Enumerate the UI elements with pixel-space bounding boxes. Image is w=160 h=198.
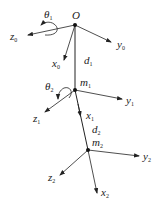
label-x0: x0 <box>51 57 60 70</box>
label-y0: y0 <box>116 38 125 51</box>
label-m1: m1 <box>80 76 91 89</box>
diagram-svg: O θ1 z0 y0 x0 d1 m1 θ2 y1 z1 x1 d2 m2 y2… <box>0 0 160 198</box>
label-y2: y2 <box>142 150 151 163</box>
z0-axis <box>28 25 75 35</box>
z1-axis <box>45 90 75 112</box>
label-theta2: θ2 <box>45 80 53 93</box>
node-O <box>73 23 77 27</box>
y0-axis <box>75 25 111 42</box>
label-d2: d2 <box>92 123 101 136</box>
x2-axis <box>88 150 97 193</box>
node-m1 <box>73 88 77 92</box>
label-d1: d1 <box>84 54 93 67</box>
label-O: O <box>72 9 80 21</box>
label-x2: x2 <box>100 186 109 198</box>
label-z1: z1 <box>32 112 40 125</box>
x0-axis <box>64 25 75 60</box>
theta1-rotation-icon <box>41 22 57 35</box>
y1-axis <box>75 90 122 99</box>
y2-axis <box>88 150 139 156</box>
x1-axis-arrow <box>78 104 81 116</box>
label-z0: z0 <box>9 30 17 43</box>
label-theta1: θ1 <box>44 8 52 21</box>
z2-axis <box>60 150 88 175</box>
label-m2: m2 <box>92 136 103 149</box>
label-z2: z2 <box>47 171 55 184</box>
kinematic-diagram: O θ1 z0 y0 x0 d1 m1 θ2 y1 z1 x1 d2 m2 y2… <box>0 0 160 198</box>
label-x1: x1 <box>85 109 94 122</box>
label-y1: y1 <box>125 94 134 107</box>
node-m2 <box>86 148 90 152</box>
